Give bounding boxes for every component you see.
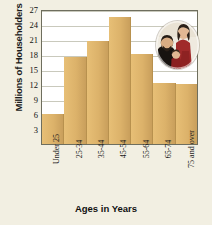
x-tick-cell: 25-34 [63, 147, 85, 197]
y-tick-label: 24 [22, 20, 38, 30]
x-tick-label: Under 25 [52, 134, 61, 164]
y-tick-label: 6 [22, 110, 38, 120]
bar [109, 17, 131, 145]
x-tick-label: 25-34 [75, 140, 84, 159]
x-tick-cell: 35-44 [86, 147, 108, 197]
x-tick-label: 65-74 [164, 140, 173, 159]
x-tick-label: 75 and over [187, 130, 196, 168]
x-axis-tick-labels: Under 2525-3435-4445-5455-6465-7475 and … [41, 147, 198, 197]
y-tick-label: 12 [22, 80, 38, 90]
x-tick-cell: 65-74 [153, 147, 175, 197]
x-tick-cell: 75 and over [176, 147, 198, 197]
y-tick-label: 27 [22, 5, 38, 15]
x-tick-label: 55-64 [142, 140, 151, 159]
x-tick-label: 45-54 [119, 140, 128, 159]
family-photo-inset [156, 21, 199, 69]
y-tick-label: 3 [22, 125, 38, 135]
bar [131, 54, 153, 144]
histogram-figure: Millions of Householders 369121518212427 [0, 0, 212, 225]
y-tick-label: 15 [22, 65, 38, 75]
x-axis-title: Ages in Years [0, 203, 212, 214]
bar [153, 83, 175, 145]
y-tick-label: 9 [22, 95, 38, 105]
bar [64, 57, 86, 144]
x-tick-cell: Under 25 [41, 147, 63, 197]
bar [87, 41, 109, 145]
y-axis-tick-labels: 369121518212427 [22, 10, 38, 145]
family-photo-image [156, 21, 199, 69]
x-tick-cell: 45-54 [108, 147, 130, 197]
y-tick-label: 21 [22, 35, 38, 45]
y-tick-label: 18 [22, 50, 38, 60]
x-tick-label: 35-44 [97, 140, 106, 159]
x-tick-cell: 55-64 [131, 147, 153, 197]
